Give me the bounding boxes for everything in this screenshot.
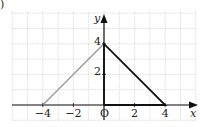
- x-axis-label: x: [190, 107, 197, 120]
- coordinate-diagram: ) y x O −4−224 24: [0, 0, 203, 127]
- origin-label: O: [100, 107, 109, 120]
- y-tick-label: 2: [94, 65, 101, 78]
- x-tick-label: 2: [131, 107, 138, 120]
- part-marker: ): [0, 0, 4, 11]
- y-tick-label: 4: [94, 35, 101, 48]
- x-tick-label: −2: [65, 107, 81, 120]
- x-tick-label: 4: [162, 107, 169, 120]
- y-axis-label: y: [93, 12, 101, 25]
- x-tick-label: −4: [35, 107, 51, 120]
- y-axis-arrow-icon: [101, 14, 108, 23]
